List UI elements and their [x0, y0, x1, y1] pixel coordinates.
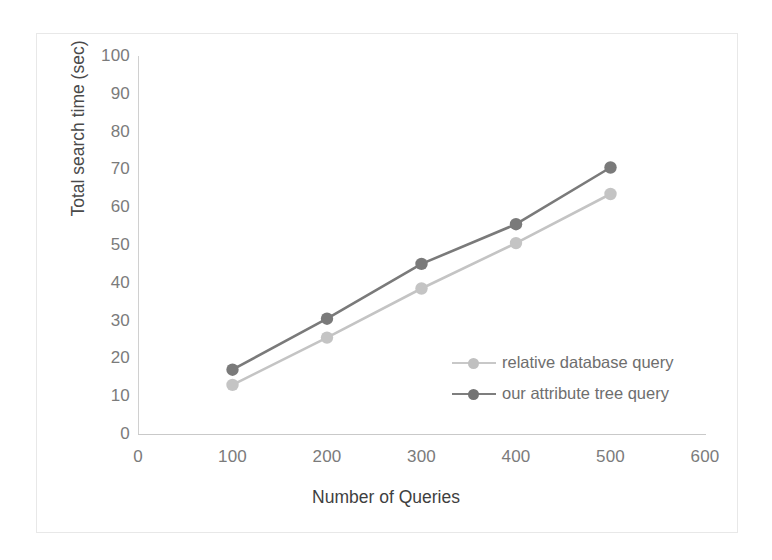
legend-label: relative database query: [502, 353, 674, 372]
chart-container: 1009080706050403020100 01002003004005006…: [0, 0, 772, 560]
legend-marker-icon: [452, 387, 496, 401]
legend-label: our attribute tree query: [502, 384, 669, 403]
y-axis-title: Total search time (sec): [68, 0, 89, 269]
data-point-marker: [510, 218, 522, 230]
data-point-marker: [510, 237, 522, 249]
data-point-marker: [604, 188, 616, 200]
data-point-marker: [415, 282, 427, 294]
data-point-marker: [226, 364, 238, 376]
data-point-marker: [604, 161, 616, 173]
data-point-marker: [321, 331, 333, 343]
legend-item-relative-database-query: relative database query: [452, 347, 692, 378]
data-point-marker: [321, 313, 333, 325]
chart-series-layer: [0, 0, 772, 560]
x-axis-title: Number of Queries: [0, 487, 772, 508]
data-point-marker: [226, 379, 238, 391]
chart-legend: relative database query our attribute tr…: [452, 347, 692, 409]
legend-item-our-attribute-tree-query: our attribute tree query: [452, 378, 692, 409]
data-point-marker: [415, 258, 427, 270]
legend-marker-icon: [452, 356, 496, 370]
